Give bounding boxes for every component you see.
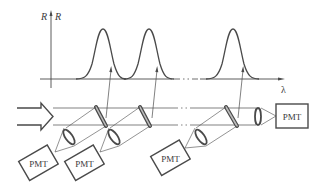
pmt-label-3: PMT xyxy=(161,154,180,164)
peak-1-pointer xyxy=(106,70,111,118)
y-axis-label-right: R xyxy=(54,11,61,22)
spectrometer-diagram: R R λ xyxy=(0,0,324,188)
lens-1-icon xyxy=(61,128,77,146)
y-axis-arrowhead xyxy=(50,10,53,16)
ray-bundle-4 xyxy=(261,108,276,125)
pmt-label-4: PMT xyxy=(283,112,302,122)
peak-2-pointer-head xyxy=(155,66,158,72)
peak-2-pointer xyxy=(152,70,157,118)
optical-train: PMT PMT PMT PMT xyxy=(17,103,308,181)
peak-1-pointer-head xyxy=(109,66,112,72)
pmt-detector-1: PMT xyxy=(19,145,59,181)
pmt-detector-2: PMT xyxy=(65,145,105,181)
input-beam-arrow-icon xyxy=(17,103,53,130)
lens-2-icon xyxy=(106,128,122,146)
pmt-label-2: PMT xyxy=(75,159,94,169)
lens-3-icon xyxy=(193,128,209,146)
peak-1 xyxy=(76,29,126,79)
filter-1 xyxy=(96,107,106,126)
peak-3-pointer xyxy=(238,70,243,118)
y-axis-label-left: R xyxy=(40,11,47,22)
pmt-detector-3: PMT xyxy=(151,140,191,176)
peak-3 xyxy=(206,29,259,79)
spectrum-plot: R R λ xyxy=(40,10,286,118)
x-axis-label: λ xyxy=(281,84,286,95)
pmt-label-1: PMT xyxy=(29,159,48,169)
pmt-detector-4: PMT xyxy=(276,104,308,128)
filter-2 xyxy=(140,107,150,126)
peak-3-pointer-head xyxy=(241,66,244,72)
x-axis-arrowhead xyxy=(278,78,285,81)
peak-2 xyxy=(124,29,174,79)
lens-4-icon xyxy=(255,108,261,125)
filter-3 xyxy=(226,107,237,126)
